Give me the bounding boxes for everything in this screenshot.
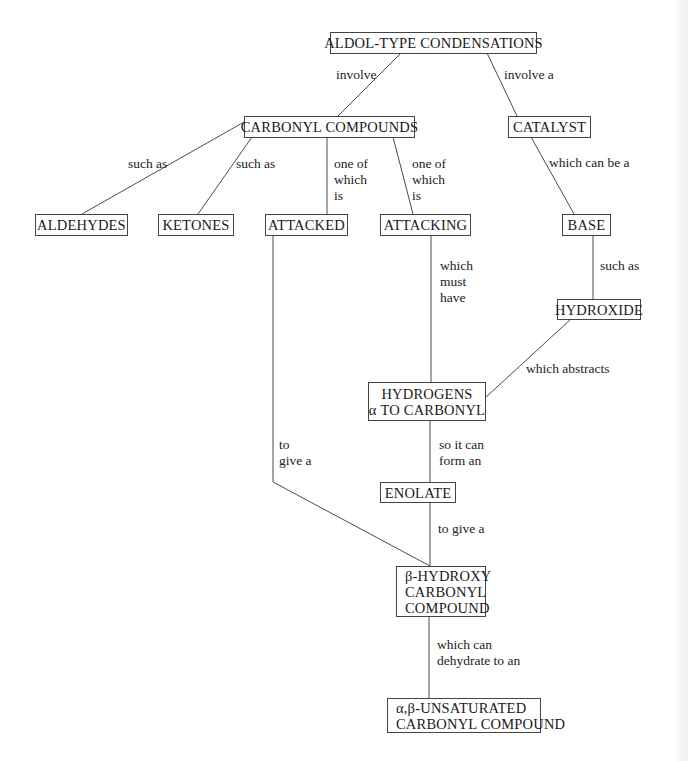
- link-label-such-as-hydroxide: such as: [600, 258, 639, 274]
- node-label: ALDEHYDES: [37, 217, 126, 233]
- link-label-which-must-have: which must have: [440, 258, 473, 306]
- node-carbonyl-compounds: CARBONYL COMPOUNDS: [244, 116, 415, 138]
- link-label-such-as-ketones: such as: [236, 156, 275, 172]
- node-label: HYDROXIDE: [555, 302, 643, 318]
- edge-aldol-catalyst: [487, 53, 517, 116]
- node-label: KETONES: [162, 217, 229, 233]
- link-label-line: form an: [439, 453, 484, 469]
- node-label-line-2: α TO CARBONYL: [369, 402, 485, 418]
- node-aldehydes: ALDEHYDES: [35, 214, 128, 236]
- edge-carbonyl-ketones: [198, 137, 252, 214]
- node-hydrogens-alpha-to-carbonyl: HYDROGENS α TO CARBONYL: [368, 382, 486, 421]
- node-label: ENOLATE: [385, 485, 452, 501]
- link-label-line: give a: [279, 453, 312, 469]
- node-label: ALDOL-TYPE CONDENSATIONS: [324, 35, 543, 51]
- node-hydroxide: HYDROXIDE: [557, 299, 641, 320]
- node-catalyst: CATALYST: [508, 116, 591, 138]
- node-label-line-3: COMPOUND: [405, 600, 490, 616]
- link-label-line: which abstracts: [526, 361, 610, 377]
- link-label-involve-a: involve a: [504, 67, 554, 83]
- link-label-which-can-dehydrate-to-an: which can dehydrate to an: [437, 637, 520, 669]
- link-label-so-it-can-form-an: so it can form an: [439, 437, 484, 469]
- edge-catalyst-base: [531, 137, 574, 214]
- link-label-line: which: [334, 172, 368, 188]
- node-label: ATTACKING: [384, 217, 468, 233]
- node-label-line-1: α,β-UNSATURATED: [396, 700, 526, 716]
- link-label-line: one of: [412, 156, 446, 172]
- link-label-which-can-be-a: which can be a: [549, 155, 630, 171]
- node-label: ATTACKED: [268, 217, 345, 233]
- node-attacked: ATTACKED: [265, 214, 348, 236]
- link-label-line: to give a: [438, 521, 485, 537]
- node-label-line-1: β-HYDROXY: [405, 568, 492, 584]
- node-enolate: ENOLATE: [380, 482, 456, 503]
- link-label-line: so it can: [439, 437, 484, 453]
- link-label-one-of-which-is-attacking: one of which is: [412, 156, 446, 204]
- edge-carbonyl-attacking: [393, 137, 413, 214]
- node-alpha-beta-unsaturated-carbonyl-compound: α,β-UNSATURATED CARBONYL COMPOUND: [387, 698, 541, 733]
- link-label-one-of-which-is-attacked: one of which is: [334, 156, 368, 204]
- link-label-line: which can: [437, 637, 520, 653]
- link-label-to-give-a-enolate: to give a: [438, 521, 485, 537]
- node-label: BASE: [568, 217, 606, 233]
- link-label-which-abstracts: which abstracts: [526, 361, 610, 377]
- node-label: CARBONYL COMPOUNDS: [241, 119, 419, 135]
- node-beta-hydroxy-carbonyl-compound: β-HYDROXY CARBONYL COMPOUND: [396, 566, 486, 617]
- node-aldol-type-condensations: ALDOL-TYPE CONDENSATIONS: [330, 32, 537, 54]
- link-label-line: which: [412, 172, 446, 188]
- node-label-line-2: CARBONYL: [405, 584, 486, 600]
- link-label-line: such as: [128, 156, 167, 172]
- node-label: CATALYST: [513, 119, 586, 135]
- link-label-line: involve a: [504, 67, 554, 83]
- link-label-line: one of: [334, 156, 368, 172]
- link-label-involve: involve: [336, 67, 377, 83]
- node-attacking: ATTACKING: [380, 214, 471, 236]
- link-label-line: which can be a: [549, 155, 630, 171]
- node-ketones: KETONES: [158, 214, 234, 236]
- link-label-line: such as: [236, 156, 275, 172]
- link-label-line: dehydrate to an: [437, 653, 520, 669]
- link-label-line: which: [440, 258, 473, 274]
- edge-aldol-carbonyl: [338, 53, 401, 116]
- link-label-line: is: [334, 188, 368, 204]
- link-label-line: involve: [336, 67, 377, 83]
- node-label-line-2: CARBONYL COMPOUND: [396, 716, 565, 732]
- connector-lines: [0, 0, 688, 761]
- link-label-line: have: [440, 290, 473, 306]
- edge-hydroxide-hydrogens: [485, 319, 571, 398]
- link-label-line: must: [440, 274, 473, 290]
- link-label-line: such as: [600, 258, 639, 274]
- link-label-to-give-a-attacked: to give a: [279, 437, 312, 469]
- link-label-line: to: [279, 437, 312, 453]
- link-label-such-as-aldehydes: such as: [128, 156, 167, 172]
- node-label-line-1: HYDROGENS: [381, 386, 472, 402]
- link-label-line: is: [412, 188, 446, 204]
- node-base: BASE: [562, 214, 611, 236]
